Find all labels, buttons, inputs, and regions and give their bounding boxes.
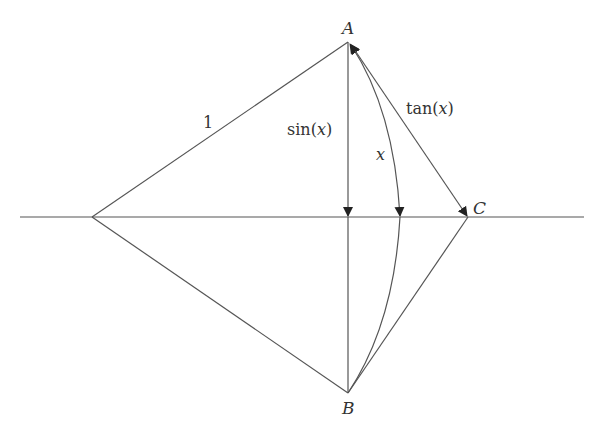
arc-x-upper-down [351,45,400,216]
tangent-AC-arrow [352,46,467,216]
label-arc-x: x [376,145,385,164]
label-C: C [473,198,486,218]
radius-OB-line [92,217,348,393]
arc-x-upper [351,45,400,216]
line-CB [348,217,468,393]
arc-x-lower [348,217,400,393]
label-sin-x: sin(x) [287,120,332,139]
label-A: A [340,18,354,38]
diagram-canvas: A B C 1 sin(x) tan(x) x [0,0,589,433]
label-tan-x: tan(x) [406,99,454,118]
label-B: B [341,398,355,418]
label-radius-1: 1 [203,113,213,132]
geometry-svg: A B C 1 sin(x) tan(x) x [0,0,589,433]
